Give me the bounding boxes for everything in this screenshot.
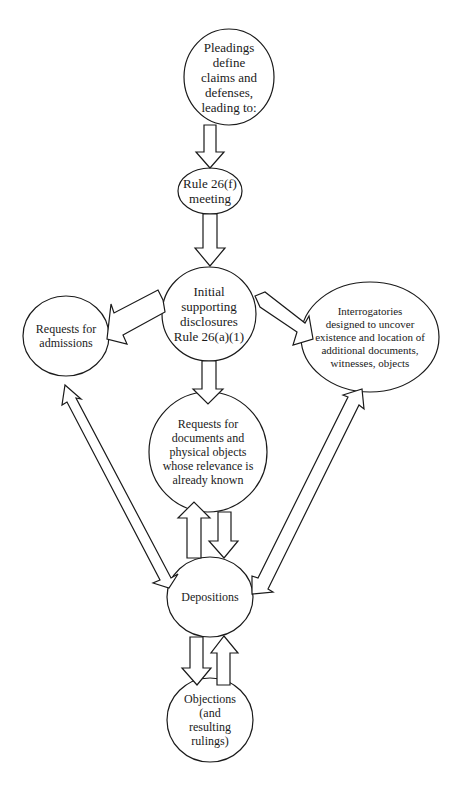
node-objections-shape bbox=[167, 678, 253, 762]
arrow-down-left-icon bbox=[107, 290, 165, 344]
node-admissions-shape bbox=[23, 296, 109, 376]
arrow-up-icon bbox=[211, 636, 238, 685]
node-interrogatories-shape bbox=[301, 282, 439, 392]
node-pleadings-shape bbox=[184, 29, 274, 125]
arrow-down-icon bbox=[209, 512, 238, 558]
discovery-flowchart bbox=[0, 0, 453, 787]
node-documents-shape bbox=[149, 392, 267, 512]
node-initial-shape bbox=[162, 267, 256, 361]
node-depositions-shape bbox=[167, 557, 253, 637]
double-arrow-icon bbox=[252, 389, 364, 594]
arrow-down-icon bbox=[196, 125, 224, 168]
node-rule26f-shape bbox=[178, 168, 242, 214]
arrow-down-icon bbox=[195, 214, 225, 266]
